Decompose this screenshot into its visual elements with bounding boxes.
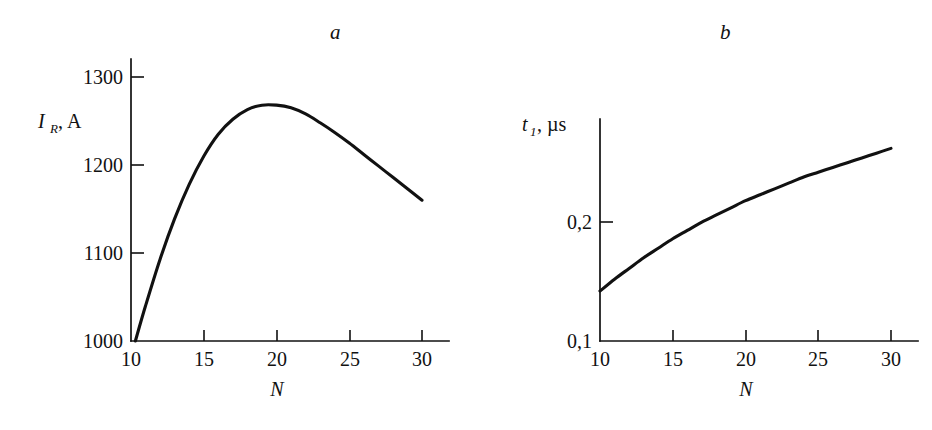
x-tick-label-15: 15 [194, 348, 214, 370]
y-tick-label-1100: 1100 [84, 242, 123, 264]
panel-a-x-ticks [204, 330, 422, 341]
y-axis-title-subscript: R [49, 121, 58, 136]
x-tick-label-30: 30 [412, 348, 432, 370]
x-tick-label-15: 15 [663, 348, 683, 370]
y-tick-label-1000: 1000 [83, 330, 123, 352]
x-tick-label-30: 30 [881, 348, 901, 370]
y-axis-title-units: , µs [537, 113, 567, 136]
y-tick-label-1200: 1200 [83, 154, 123, 176]
panel-b: b 0,2 0,1 t 1 , µs 10 15 [466, 0, 932, 430]
x-axis-title-b: N [738, 378, 754, 400]
panel-a-y-axis-title: I R , A [37, 110, 82, 136]
x-tick-label-25: 25 [808, 348, 828, 370]
x-tick-label-20: 20 [736, 348, 756, 370]
panel-a-data-curve [135, 105, 422, 341]
panel-b-data-curve [600, 148, 891, 291]
panel-a: a 1300 1200 1100 1000 [0, 0, 466, 430]
panel-b-plot: 0,2 0,1 t 1 , µs 10 15 20 25 30 N [466, 0, 932, 430]
y-tick-label-1300: 1300 [83, 66, 123, 88]
x-tick-label-10: 10 [121, 348, 141, 370]
panel-b-x-ticks [673, 330, 891, 341]
x-tick-label-10: 10 [590, 348, 610, 370]
panel-b-y-axis-title: t 1 , µs [522, 113, 567, 139]
y-axis-title-subscript: 1 [530, 124, 537, 139]
y-axis-title-symbol: I [37, 110, 46, 132]
figure-container: a 1300 1200 1100 1000 [0, 0, 932, 430]
x-tick-label-25: 25 [340, 348, 360, 370]
y-axis-title-symbol: t [522, 113, 528, 135]
y-tick-label-0-2: 0,2 [567, 211, 592, 233]
panel-a-plot: 1300 1200 1100 1000 I R , A 10 15 20 25 … [0, 0, 466, 430]
x-tick-label-20: 20 [267, 348, 287, 370]
y-axis-title-units: , A [58, 110, 82, 132]
panel-a-y-ticks [131, 77, 144, 253]
x-axis-title-a: N [269, 378, 285, 400]
y-tick-label-0-1: 0,1 [567, 330, 592, 352]
